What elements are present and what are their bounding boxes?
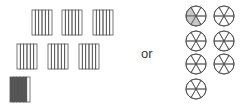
strip bbox=[51, 44, 54, 69]
strip bbox=[75, 10, 78, 35]
strip bbox=[65, 44, 68, 69]
or-separator-label: or bbox=[141, 46, 153, 61]
strip bbox=[86, 44, 89, 69]
strip bbox=[93, 10, 96, 35]
shaded-strip bbox=[20, 77, 23, 102]
sector bbox=[191, 89, 201, 99]
sector bbox=[191, 31, 201, 41]
strip bbox=[32, 10, 35, 35]
strip bbox=[27, 44, 30, 69]
circle-model bbox=[186, 6, 206, 26]
circle-model bbox=[214, 6, 234, 26]
shaded-strip bbox=[10, 77, 13, 102]
rectangle-model bbox=[17, 44, 37, 69]
strip bbox=[96, 10, 99, 35]
strip bbox=[34, 44, 37, 69]
strip bbox=[92, 44, 95, 69]
sector bbox=[219, 16, 229, 26]
strip bbox=[39, 10, 42, 35]
center-dot bbox=[195, 40, 197, 42]
fraction-diagram bbox=[0, 0, 252, 111]
rectangle-model bbox=[32, 10, 52, 35]
strip bbox=[110, 10, 113, 35]
sector bbox=[219, 54, 229, 64]
sector bbox=[191, 79, 201, 89]
circle-model bbox=[186, 54, 206, 74]
rectangle-model bbox=[10, 77, 30, 102]
strip bbox=[49, 10, 52, 35]
strip bbox=[82, 44, 85, 69]
circle-model bbox=[214, 54, 234, 74]
strip bbox=[35, 10, 38, 35]
rectangle-model bbox=[93, 10, 113, 35]
strip bbox=[106, 10, 109, 35]
strip bbox=[61, 44, 64, 69]
strip bbox=[79, 44, 82, 69]
shaded-strip bbox=[23, 77, 26, 102]
sector bbox=[191, 64, 201, 74]
strip bbox=[42, 10, 45, 35]
strip bbox=[89, 44, 92, 69]
center-dot bbox=[223, 15, 225, 17]
strip bbox=[100, 10, 103, 35]
sector bbox=[219, 6, 229, 16]
strip bbox=[58, 44, 61, 69]
sector bbox=[219, 41, 229, 51]
center-dot bbox=[223, 63, 225, 65]
center-dot bbox=[195, 63, 197, 65]
rectangle-model bbox=[62, 10, 82, 35]
strip bbox=[62, 10, 65, 35]
circle-model bbox=[186, 79, 206, 99]
shaded-strip bbox=[17, 77, 20, 102]
center-dot bbox=[195, 88, 197, 90]
rectangle-model bbox=[79, 44, 99, 69]
rectangle-model bbox=[48, 44, 68, 69]
strip bbox=[27, 77, 30, 102]
shaded-strip bbox=[13, 77, 16, 102]
sector bbox=[191, 41, 201, 51]
strip bbox=[55, 44, 58, 69]
rectangle-models bbox=[10, 10, 113, 102]
strip bbox=[96, 44, 99, 69]
sector bbox=[191, 54, 201, 64]
center-dot bbox=[223, 40, 225, 42]
strip bbox=[48, 44, 51, 69]
sector bbox=[219, 31, 229, 41]
strip bbox=[103, 10, 106, 35]
strip bbox=[72, 10, 75, 35]
strip bbox=[65, 10, 68, 35]
sector bbox=[219, 64, 229, 74]
strip bbox=[30, 44, 33, 69]
circle-model bbox=[214, 31, 234, 51]
circle-model bbox=[186, 31, 206, 51]
strip bbox=[79, 10, 82, 35]
strip bbox=[24, 44, 27, 69]
circle-models bbox=[186, 6, 234, 99]
center-dot bbox=[195, 15, 197, 17]
strip bbox=[69, 10, 72, 35]
strip bbox=[45, 10, 48, 35]
strip bbox=[20, 44, 23, 69]
strip bbox=[17, 44, 20, 69]
